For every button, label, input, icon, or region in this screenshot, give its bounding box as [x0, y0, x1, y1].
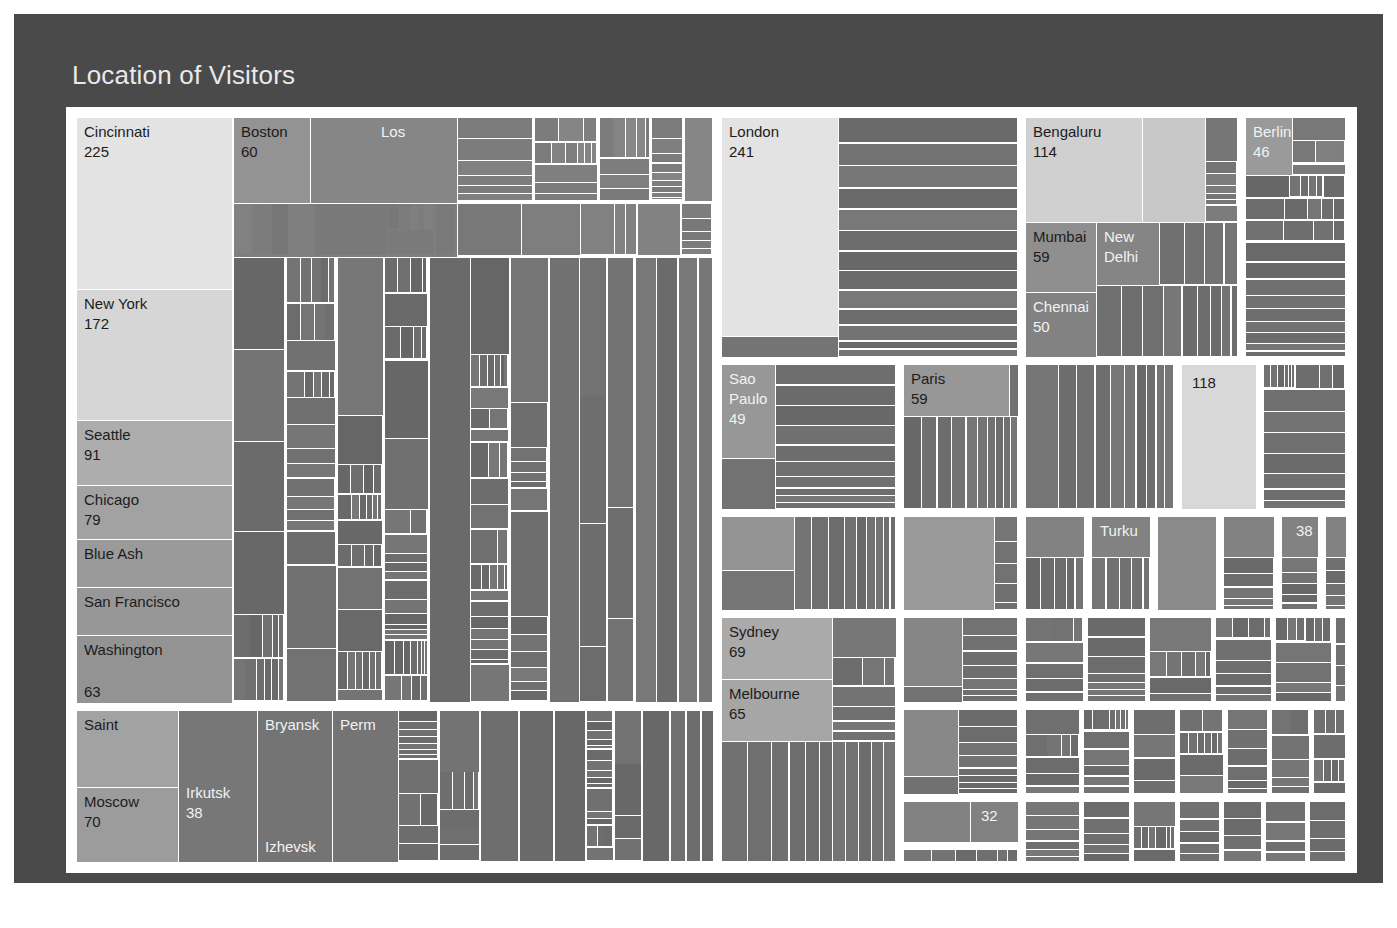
treemap-cell[interactable]: [422, 641, 424, 675]
treemap-cell[interactable]: [995, 542, 1017, 563]
treemap-cell[interactable]: [338, 545, 351, 565]
treemap-cell[interactable]: [682, 232, 711, 240]
treemap-cell[interactable]: [511, 617, 547, 635]
treemap-cell[interactable]: [839, 271, 1017, 289]
treemap-group-cell-1-1[interactable]: [1082, 708, 1132, 796]
treemap-cell[interactable]: [471, 629, 508, 639]
treemap-cell[interactable]: [287, 521, 335, 531]
treemap-cell[interactable]: [876, 517, 883, 609]
treemap-cell[interactable]: [1084, 766, 1129, 775]
treemap-group-cell-2-0[interactable]: [1024, 800, 1082, 864]
treemap-cell[interactable]: [1132, 558, 1143, 609]
treemap-cell[interactable]: [559, 118, 582, 141]
treemap-cell[interactable]: [587, 812, 612, 818]
treemap-cell[interactable]: [1120, 558, 1131, 609]
treemap-cell[interactable]: [505, 565, 507, 590]
treemap-cell[interactable]: [287, 532, 335, 564]
treemap-cell[interactable]: [687, 711, 701, 861]
treemap-cell[interactable]: [600, 118, 613, 157]
treemap-cell[interactable]: [1137, 365, 1146, 508]
treemap-cell[interactable]: [1216, 687, 1271, 694]
treemap-group-france[interactable]: Paris 59: [902, 363, 1020, 511]
treemap-cell[interactable]: [845, 517, 855, 609]
treemap-cell[interactable]: [458, 139, 532, 159]
treemap-cell[interactable]: [352, 545, 364, 565]
treemap-cell[interactable]: [385, 294, 426, 326]
treemap-cell[interactable]: [1180, 820, 1219, 831]
treemap-cell[interactable]: [790, 742, 805, 861]
treemap-cell[interactable]: [615, 764, 641, 814]
treemap-cell[interactable]: [501, 355, 504, 386]
treemap-group-turku[interactable]: Turku: [1090, 515, 1152, 612]
treemap-cell[interactable]: [1206, 162, 1236, 173]
treemap-cell[interactable]: [1026, 618, 1051, 641]
treemap-cell[interactable]: [314, 372, 321, 397]
treemap-group-region-d[interactable]: 32: [902, 800, 1020, 844]
treemap-cell[interactable]: [1224, 836, 1261, 849]
treemap-cell[interactable]: [1326, 584, 1345, 595]
treemap-cell[interactable]: [1171, 827, 1174, 848]
treemap-group-cell-0-0[interactable]: [1024, 616, 1086, 704]
treemap-cell[interactable]: [1326, 517, 1346, 557]
treemap-cell[interactable]: [411, 510, 426, 533]
treemap-group-usa[interactable]: Cincinnati 225New York 172Seattle 91Chic…: [75, 116, 716, 705]
treemap-cell[interactable]: [1026, 816, 1079, 829]
treemap-group-cell-1-2[interactable]: [1132, 708, 1178, 796]
treemap-cell[interactable]: [1224, 574, 1273, 586]
treemap-cell[interactable]: [995, 517, 1017, 541]
treemap-cell[interactable]: [995, 603, 1017, 608]
treemap-cell[interactable]: [399, 711, 437, 721]
treemap-cell[interactable]: [1264, 501, 1345, 507]
treemap-cell[interactable]: [1026, 787, 1079, 793]
treemap-cell-118[interactable]: 118: [1182, 365, 1256, 509]
treemap-cell[interactable]: [1246, 309, 1345, 320]
treemap-cell[interactable]: [315, 304, 325, 340]
treemap-cell[interactable]: [1180, 832, 1219, 842]
treemap-cell[interactable]: [682, 241, 711, 248]
treemap-cell[interactable]: [963, 636, 1017, 650]
treemap-cell[interactable]: [1322, 199, 1332, 219]
treemap-cell[interactable]: [535, 183, 598, 193]
treemap-cell[interactable]: [566, 143, 577, 163]
treemap-cell[interactable]: [833, 722, 895, 731]
treemap-cell[interactable]: [1084, 750, 1129, 765]
treemap-cell[interactable]: [287, 510, 335, 520]
treemap-cell[interactable]: [458, 204, 521, 255]
treemap-group-cell-0-1[interactable]: [1086, 616, 1148, 704]
treemap-group-cell-0-4[interactable]: [1274, 616, 1334, 704]
treemap-cell[interactable]: [385, 258, 397, 292]
treemap-cell[interactable]: [511, 258, 547, 402]
treemap-cell[interactable]: [471, 591, 508, 600]
treemap-cell[interactable]: [839, 166, 1017, 187]
treemap-cell[interactable]: [1180, 854, 1219, 861]
treemap-cell[interactable]: [1026, 842, 1079, 849]
treemap-cell[interactable]: [1134, 759, 1175, 781]
treemap-cell[interactable]: [273, 615, 278, 658]
treemap-cell[interactable]: [1336, 666, 1345, 685]
treemap-cell[interactable]: [471, 479, 508, 504]
treemap-cell[interactable]: [1225, 223, 1237, 284]
treemap-cell[interactable]: [482, 565, 489, 590]
treemap-cell[interactable]: [338, 521, 382, 544]
treemap-cell[interactable]: [671, 711, 686, 861]
treemap-cell[interactable]: [471, 443, 487, 477]
treemap-cell[interactable]: [959, 776, 1017, 781]
treemap-cell[interactable]: [959, 756, 1017, 767]
treemap-cell[interactable]: [1143, 118, 1205, 222]
treemap-cell[interactable]: [820, 742, 832, 861]
treemap-cell[interactable]: [423, 258, 426, 292]
treemap-cell[interactable]: [436, 204, 455, 255]
treemap-cell[interactable]: [1010, 365, 1018, 416]
treemap-cell-sydney[interactable]: Sydney 69: [722, 618, 832, 679]
treemap-cell[interactable]: [587, 819, 612, 824]
treemap-cell[interactable]: [776, 406, 895, 425]
treemap-cell[interactable]: [399, 744, 437, 749]
treemap-cell[interactable]: [1326, 558, 1345, 570]
treemap-cell-sao-paulo[interactable]: Sao Paulo 49: [722, 365, 775, 458]
treemap-cell[interactable]: [1266, 802, 1305, 821]
treemap-cell[interactable]: [884, 742, 894, 861]
treemap-group-38[interactable]: 38: [1280, 515, 1320, 612]
treemap-cell[interactable]: [1310, 821, 1345, 838]
treemap-cell[interactable]: [440, 711, 479, 772]
treemap-cell[interactable]: [1067, 558, 1074, 609]
